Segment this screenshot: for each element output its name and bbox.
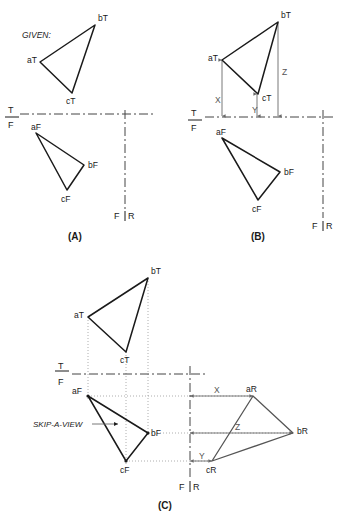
point-label-bF-b: bF xyxy=(284,167,294,177)
front-view-triangle-b xyxy=(222,138,280,200)
point-label-aT-a: aT xyxy=(27,55,37,65)
point-label-bF-c: bF xyxy=(151,428,161,438)
dimension-label-z-b: Z xyxy=(282,67,287,77)
point-label-cT-b: cT xyxy=(262,93,271,103)
front-view-triangle-a xyxy=(36,133,84,190)
panel-label-b: (B) xyxy=(251,231,265,242)
top-view-triangle-c xyxy=(88,278,148,352)
fold-label-f-a: F xyxy=(8,120,14,130)
descriptive-geometry-figure: GIVEN: T F F R aT bT cT aF bF cF (A) xyxy=(0,0,338,526)
right-view-triangle-c xyxy=(212,396,293,461)
point-label-aF-b: aF xyxy=(216,127,226,137)
point-label-cT-a: cT xyxy=(66,96,75,106)
point-label-cF-a: cF xyxy=(61,194,70,204)
point-label-aT-c: aT xyxy=(74,310,84,320)
panel-a: GIVEN: T F F R aT bT cT aF bF cF (A) xyxy=(5,13,155,242)
dimension-label-x-c: X xyxy=(214,385,220,395)
fold-label-f-right-a: F xyxy=(114,211,120,221)
point-label-cF-b: cF xyxy=(252,204,261,214)
point-label-bT-a: bT xyxy=(98,13,108,23)
dimension-label-y-b: Y xyxy=(252,105,258,115)
top-view-triangle-b xyxy=(222,22,278,94)
vertex-dot-cF-c xyxy=(124,459,127,462)
panel-b: T F F R X Y Z aT bT cT aF bF cF (B) xyxy=(188,10,333,242)
point-label-aR-c: aR xyxy=(246,384,257,394)
point-label-cT-c: cT xyxy=(120,355,129,365)
point-label-cR-c: cR xyxy=(206,465,216,475)
point-label-bT-b: bT xyxy=(281,10,291,20)
fold-label-f-b: F xyxy=(191,123,197,133)
point-label-aF-a: aF xyxy=(31,122,41,132)
point-label-aT-b: aT xyxy=(208,53,218,63)
skip-a-view-note: SKIP-A-VIEW xyxy=(33,420,84,429)
fold-label-f-right-c: F xyxy=(179,482,185,492)
panel-c: T F F R X Z Y aT bT cT aF bF xyxy=(33,266,308,511)
given-note: GIVEN: xyxy=(22,30,51,40)
dimension-label-y-c: Y xyxy=(199,451,205,461)
figure-svg: GIVEN: T F F R aT bT cT aF bF cF (A) xyxy=(0,0,338,526)
fold-label-t-b: T xyxy=(191,108,197,118)
fold-label-f-c: F xyxy=(58,377,64,387)
point-label-aF-c: aF xyxy=(72,386,82,396)
fold-label-t-c: T xyxy=(58,361,64,371)
point-label-bT-c: bT xyxy=(151,266,161,276)
fold-label-r-b: R xyxy=(326,221,333,231)
fold-label-f-right-b: F xyxy=(312,221,318,231)
panel-label-a: (A) xyxy=(68,231,82,242)
panel-label-c: (C) xyxy=(158,500,172,511)
fold-label-t-a: T xyxy=(8,105,14,115)
dimension-label-x-b: X xyxy=(215,95,221,105)
vertex-dot-aF-c xyxy=(86,394,89,397)
vertex-dot-bF-c xyxy=(146,431,149,434)
point-label-bF-a: bF xyxy=(88,160,98,170)
point-label-cF-c: cF xyxy=(120,465,129,475)
point-label-bR-c: bR xyxy=(297,426,308,436)
fold-label-r-c: R xyxy=(193,482,200,492)
front-view-triangle-c xyxy=(88,396,148,461)
fold-label-r-a: R xyxy=(128,211,135,221)
